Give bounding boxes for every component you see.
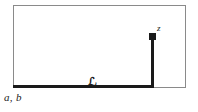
fraktur-L-glyph: ℒ <box>88 75 97 89</box>
label-point-z: z <box>157 24 161 33</box>
subscript-z-glyph: z <box>97 82 100 90</box>
contour-path-vertical-segment <box>151 35 154 88</box>
figure-canvas: z ℒz a, b <box>0 0 198 112</box>
endpoint-z-marker <box>149 33 156 40</box>
label-contour-path-Lz: ℒz <box>88 76 100 90</box>
label-basepoint-ab: a, b <box>4 92 22 103</box>
contour-path-horizontal-segment <box>13 85 154 88</box>
